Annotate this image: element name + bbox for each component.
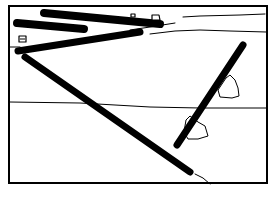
upper-bank-top: [183, 14, 265, 17]
top-pole-short: [17, 23, 84, 29]
rock-outlines: [184, 75, 239, 139]
ground-lines: [9, 14, 267, 184]
bank-pole: [18, 32, 140, 51]
diagonal-pole: [25, 57, 190, 172]
poles: [17, 13, 243, 172]
pole-diagram: [0, 0, 279, 204]
anchor-left: [19, 36, 26, 42]
diagram-canvas: [0, 0, 279, 204]
water-line: [9, 102, 267, 108]
upper-bank-bottom: [150, 30, 266, 34]
anchor-top-right: [152, 15, 160, 20]
anchor-top-small: [131, 14, 135, 17]
top-pole-long: [44, 13, 160, 24]
